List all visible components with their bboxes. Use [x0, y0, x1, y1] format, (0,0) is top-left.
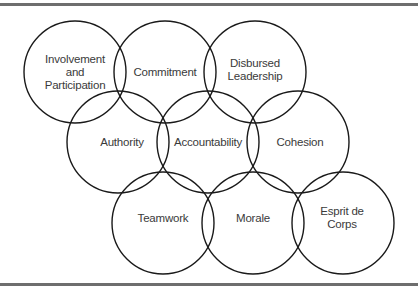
- label-cohesion: Cohesion: [277, 136, 324, 149]
- label-commitment: Commitment: [133, 66, 196, 79]
- label-esprit-de-corps: Esprit de Corps: [304, 205, 380, 231]
- label-disbursed-leadership: Disbursed Leadership: [228, 57, 283, 83]
- label-teamwork: Teamwork: [138, 212, 189, 225]
- label-accountability: Accountability: [174, 136, 242, 149]
- label-involvement: Involvement and Participation: [45, 53, 106, 92]
- label-morale: Morale: [236, 212, 270, 225]
- label-authority: Authority: [100, 136, 144, 149]
